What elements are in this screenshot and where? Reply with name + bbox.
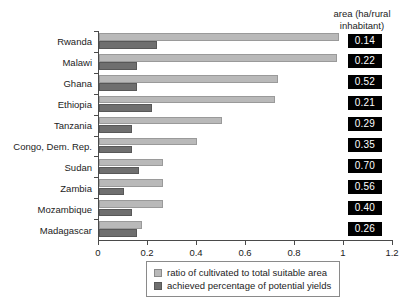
category-label: Madagascar [40,224,92,235]
annotation-value-box: 0.29 [348,117,382,131]
category-label: Ghana [63,78,92,89]
bar-achieved-yields [99,125,132,133]
x-axis-tick-label: 0 [95,247,100,258]
annotation-value-box: 0.26 [348,222,382,236]
x-axis-tick [245,240,246,245]
x-axis-tick-label: 0.8 [287,247,300,258]
y-axis-tick [94,198,98,199]
bar-row: Ghana0.52 [98,73,392,94]
bar-achieved-yields [99,41,157,49]
bar-row: Madagascar0.26 [98,219,392,240]
annotation-value-box: 0.22 [348,54,382,68]
bar-achieved-yields [99,229,137,237]
legend-swatch-light-icon [154,269,162,277]
bar-achieved-yields [99,188,124,196]
chart-legend: ratio of cultivated to total suitable ar… [146,261,340,297]
bar-achieved-yields [99,62,137,70]
bar-ratio-cultivated [99,138,197,146]
bar-achieved-yields [99,167,139,175]
category-label: Congo, Dem. Rep. [13,140,92,151]
bar-row: Ethiopia0.21 [98,94,392,115]
x-axis-tick-label: 0.4 [189,247,202,258]
legend-label-achieved-yields: achieved percentage of potential yields [167,280,331,291]
bar-row: Zambia0.56 [98,177,392,198]
x-axis-tick [294,240,295,245]
annotation-value-box: 0.40 [348,201,382,215]
category-label: Tanzania [54,120,92,131]
y-axis-tick [94,31,98,32]
bar-ratio-cultivated [99,159,163,167]
legend-swatch-dark-icon [154,282,162,290]
category-label: Malawi [62,57,92,68]
y-axis-tick [94,136,98,137]
annotation-column-header: area (ha/rural inhabitant) [316,8,408,31]
x-axis-tick [343,240,344,245]
x-axis-tick-label: 0.6 [238,247,251,258]
legend-label-ratio-cultivated: ratio of cultivated to total suitable ar… [167,267,327,278]
annotation-value-box: 0.35 [348,138,382,152]
annotation-value-box: 0.56 [348,180,382,194]
legend-item-ratio-cultivated: ratio of cultivated to total suitable ar… [154,266,331,279]
x-axis-tick [196,240,197,245]
y-axis-tick [94,115,98,116]
bar-ratio-cultivated [99,75,278,83]
category-label: Rwanda [57,36,92,47]
annotation-value-box: 0.14 [348,34,382,48]
bar-row: Tanzania0.29 [98,115,392,136]
bar-row: Rwanda0.14 [98,31,392,52]
legend-item-achieved-yields: achieved percentage of potential yields [154,279,331,292]
category-label: Zambia [60,182,92,193]
y-axis-tick [94,219,98,220]
bar-row: Congo, Dem. Rep.0.35 [98,136,392,157]
category-label: Sudan [65,161,92,172]
bar-chart-figure: area (ha/rural inhabitant) Rwanda0.14Mal… [0,0,412,307]
x-axis-tick [392,240,393,245]
bar-achieved-yields [99,209,132,217]
annotation-value-box: 0.70 [348,159,382,173]
bar-ratio-cultivated [99,96,275,104]
annotation-column-header-line1: area (ha/rural [316,8,408,20]
category-label: Mozambique [38,203,92,214]
bar-achieved-yields [99,83,137,91]
plot-area: Rwanda0.14Malawi0.22Ghana0.52Ethiopia0.2… [98,31,392,240]
y-axis-tick [94,73,98,74]
y-axis-tick [94,156,98,157]
x-axis-tick-label: 0.2 [140,247,153,258]
x-axis-tick-label: 1.2 [385,247,398,258]
bar-ratio-cultivated [99,221,142,229]
bar-ratio-cultivated [99,54,337,62]
bar-row: Malawi0.22 [98,52,392,73]
bar-achieved-yields [99,104,152,112]
bar-ratio-cultivated [99,33,339,41]
annotation-value-box: 0.21 [348,96,382,110]
annotation-column-header-line2: inhabitant) [316,20,408,32]
x-axis-tick-label: 1 [340,247,345,258]
x-axis-tick [98,240,99,245]
category-label: Ethiopia [58,99,92,110]
y-axis-tick [94,94,98,95]
bar-row: Sudan0.70 [98,156,392,177]
bar-ratio-cultivated [99,179,163,187]
bar-achieved-yields [99,146,132,154]
y-axis-tick [94,177,98,178]
bar-ratio-cultivated [99,200,163,208]
y-axis-tick [94,52,98,53]
annotation-value-box: 0.52 [348,75,382,89]
bar-ratio-cultivated [99,117,222,125]
bar-row: Mozambique0.40 [98,198,392,219]
x-axis-tick [147,240,148,245]
